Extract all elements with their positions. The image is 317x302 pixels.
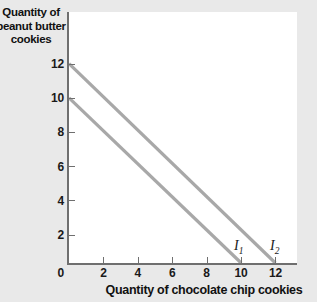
curve-label-i1: I1: [234, 238, 243, 256]
y-axis-tick-label: 0: [24, 266, 64, 280]
curve-label-i2-subscript: 2: [275, 246, 280, 256]
indifference-curve-i1: [69, 98, 241, 263]
y-axis-line: [67, 12, 69, 265]
y-axis-tick: [69, 64, 75, 65]
indifference-curve-i2: [69, 64, 275, 263]
y-axis-title-line-3: cookies: [0, 33, 68, 47]
y-axis-tick: [69, 132, 75, 133]
x-axis-title: Quantity of chocolate chip cookies: [97, 283, 311, 297]
x-axis-tick: [207, 257, 208, 263]
y-axis-tick-label: 6: [24, 160, 64, 174]
y-axis-tick: [69, 98, 75, 99]
y-axis-title: Quantity of peanut butter cookies: [0, 6, 68, 47]
x-axis-tick: [138, 257, 139, 263]
x-axis-tick: [172, 257, 173, 263]
y-axis-tick-label: 2: [24, 228, 64, 242]
y-axis-tick: [69, 200, 75, 201]
y-axis-tick-label: 4: [24, 194, 64, 208]
x-axis-line: [67, 263, 297, 265]
x-axis-tick-label: 6: [157, 266, 187, 280]
curve-label-i2: I2: [270, 238, 279, 256]
x-axis-tick-label: 4: [123, 266, 153, 280]
x-axis-tick: [275, 257, 276, 263]
y-axis-title-line-1: Quantity of: [0, 6, 68, 20]
y-axis-tick-label: 12: [24, 57, 64, 71]
y-axis-tick-label: 8: [24, 125, 64, 139]
y-axis-title-line-2: peanut butter: [0, 20, 68, 34]
y-axis-tick: [69, 166, 75, 167]
x-axis-tick-label: 2: [88, 266, 118, 280]
curve-label-i1-subscript: 1: [239, 246, 244, 256]
chart-figure: 12 10 8 6 4 2 0 2 4 6 8 10 12 I1 I2 Quan…: [0, 0, 317, 302]
x-axis-tick: [103, 257, 104, 263]
y-axis-tick-label: 10: [24, 91, 64, 105]
x-axis-tick: [241, 257, 242, 263]
x-axis-tick-label: 10: [226, 266, 256, 280]
x-axis-tick-label: 12: [260, 266, 290, 280]
y-axis-tick: [69, 235, 75, 236]
x-axis-tick-label: 8: [192, 266, 222, 280]
